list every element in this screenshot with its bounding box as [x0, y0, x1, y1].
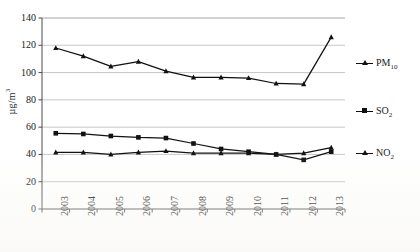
legend-label-subscript: 2 — [389, 111, 393, 119]
y-tick-label: 80 — [8, 95, 36, 105]
x-tick-label: 2008 — [198, 196, 208, 216]
legend-marker-NO2-icon — [356, 148, 373, 158]
legend-marker-PM10-icon — [356, 58, 373, 68]
data-point-SO2-2008 — [191, 141, 196, 146]
legend-label-base: PM — [376, 57, 390, 68]
y-tick-label: 100 — [8, 68, 36, 78]
data-point-SO2-2013 — [329, 149, 334, 154]
x-tick-label: 2006 — [142, 196, 152, 216]
x-tick-label: 2012 — [308, 196, 318, 216]
x-tick-label: 2004 — [87, 196, 97, 216]
y-tick-label: 120 — [8, 40, 36, 50]
y-tick-label: 140 — [8, 13, 36, 23]
legend-entry-NO2[interactable]: NO2 — [356, 146, 394, 160]
legend-marker-glyph — [362, 108, 367, 113]
data-point-SO2-2006 — [136, 135, 141, 140]
data-point-SO2-2004 — [81, 132, 86, 137]
data-point-SO2-2012 — [301, 158, 306, 163]
data-point-SO2-2003 — [53, 131, 58, 136]
legend-label-base: SO — [376, 105, 389, 116]
x-tick-label: 2003 — [60, 196, 70, 216]
legend-marker-glyph — [362, 60, 368, 65]
legend-label-NO2: NO2 — [376, 148, 394, 158]
x-tick-label: 2010 — [253, 196, 263, 216]
series-SO2 — [53, 131, 333, 162]
x-tick-label: 2007 — [170, 196, 180, 216]
data-point-PM10-2013 — [329, 34, 334, 39]
y-tick-label: 20 — [8, 177, 36, 187]
data-point-NO2-2013 — [329, 145, 334, 150]
legend-label-subscript: 2 — [390, 153, 394, 161]
data-point-PM10-2006 — [136, 59, 141, 64]
data-point-PM10-2003 — [53, 45, 58, 50]
series-PM10 — [53, 34, 334, 86]
air-quality-line-chart: µg/m3 020406080100120140 200320042005200… — [0, 0, 420, 252]
data-point-SO2-2007 — [164, 136, 169, 141]
y-tick-label: 0 — [8, 204, 36, 214]
y-tick-label: 60 — [8, 122, 36, 132]
legend-marker-SO2-icon — [356, 106, 373, 116]
legend-label-base: NO — [376, 147, 390, 158]
x-tick-label: 2011 — [280, 196, 290, 216]
legend-entry-SO2[interactable]: SO2 — [356, 104, 392, 118]
gridlines — [42, 18, 345, 182]
legend-label-subscript: 10 — [390, 63, 397, 71]
x-tick-label: 2009 — [225, 196, 235, 216]
y-tick-label: 40 — [8, 149, 36, 159]
legend-entry-PM10[interactable]: PM10 — [356, 56, 397, 70]
x-tick-label: 2005 — [115, 196, 125, 216]
data-point-SO2-2005 — [109, 134, 114, 139]
y-axis-title-exponent: 3 — [4, 89, 12, 93]
legend-label-SO2: SO2 — [376, 106, 392, 116]
series-line-SO2 — [56, 133, 331, 160]
legend-label-PM10: PM10 — [376, 58, 397, 68]
legend-marker-glyph — [362, 150, 368, 155]
x-tick-label: 2013 — [335, 196, 345, 216]
